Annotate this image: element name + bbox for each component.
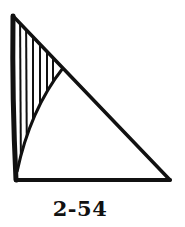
hatch-lines — [20, 10, 53, 180]
triangle-diagram — [0, 0, 185, 195]
figure-label: 2-54 — [0, 196, 160, 221]
triangle-figure — [0, 0, 185, 195]
hypotenuse — [13, 16, 170, 180]
left-leg — [13, 16, 16, 180]
